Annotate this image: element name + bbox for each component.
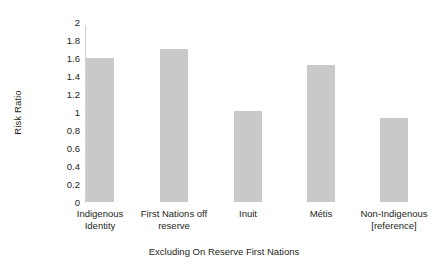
bar [234,111,262,202]
plot-area [86,22,426,202]
y-tick-label: 1.2 [30,89,80,100]
y-tick-label: 0 [30,197,80,208]
y-axis-title-text: Risk Ratio [12,90,23,134]
y-tick-label: 0.4 [30,161,80,172]
bar [160,49,188,202]
bar [86,58,114,202]
y-tick-label: 1.6 [30,53,80,64]
y-tick-label: 1.4 [30,71,80,82]
x-category-label: Non-Indigenous[reference] [348,208,440,232]
x-axis-title: Excluding On Reserve First Nations [0,246,448,257]
y-axis-title: Risk Ratio [8,0,26,225]
y-tick-label: 1 [30,107,80,118]
y-tick-label: 2 [30,17,80,28]
y-tick-label: 0.8 [30,125,80,136]
y-tick-label: 0.2 [30,179,80,190]
bar-chart-figure: Risk Ratio 00.20.40.60.811.21.41.61.82 I… [0,0,448,271]
x-category-label-line: [reference] [348,220,440,232]
bar [380,118,408,202]
x-category-label-line: reserve [128,220,220,232]
bar [307,65,335,202]
y-tick-label: 0.6 [30,143,80,154]
y-tick-label: 1.8 [30,35,80,46]
x-category-label-line: Non-Indigenous [348,208,440,220]
